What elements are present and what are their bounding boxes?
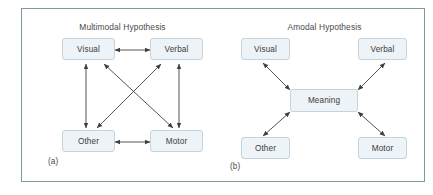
- node-motor[interactable]: Motor: [150, 130, 203, 152]
- node-other-label: Other: [255, 144, 276, 153]
- node-visual-label: Visual: [254, 45, 277, 54]
- arrow-meaning-visual: [263, 63, 290, 90]
- node-other[interactable]: Other: [62, 130, 115, 152]
- arrow-meaning-other: [263, 112, 290, 136]
- node-verbal-label: Verbal: [371, 45, 395, 54]
- arrow-verbal-other: [97, 64, 161, 128]
- figure-root: Multimodal Hypothesis: [0, 0, 433, 195]
- node-other-label: Other: [78, 137, 99, 146]
- panel-a-title: Multimodal Hypothesis: [21, 22, 224, 32]
- node-meaning-label: Meaning: [308, 96, 340, 105]
- arrow-visual-motor: [104, 64, 173, 128]
- arrow-meaning-motor: [358, 112, 385, 136]
- node-verbal-label: Verbal: [165, 45, 189, 54]
- panel-multimodal-hypothesis: Multimodal Hypothesis: [21, 0, 224, 195]
- node-meaning[interactable]: Meaning: [290, 89, 358, 112]
- arrow-meaning-verbal: [358, 63, 385, 90]
- panel-amodal-hypothesis: Amodal Hypothesis V: [224, 0, 425, 195]
- node-motor-label: Motor: [372, 144, 393, 153]
- node-visual[interactable]: Visual: [62, 38, 115, 60]
- node-verbal[interactable]: Verbal: [150, 38, 203, 60]
- panel-b-caption: (b): [230, 162, 240, 171]
- node-visual-label: Visual: [77, 45, 100, 54]
- panel-b-title: Amodal Hypothesis: [224, 22, 425, 32]
- node-visual[interactable]: Visual: [241, 38, 290, 60]
- panel-a-caption: (a): [48, 157, 58, 166]
- node-other[interactable]: Other: [241, 137, 290, 159]
- node-verbal[interactable]: Verbal: [358, 38, 407, 60]
- node-motor-label: Motor: [166, 137, 187, 146]
- node-motor[interactable]: Motor: [358, 137, 407, 159]
